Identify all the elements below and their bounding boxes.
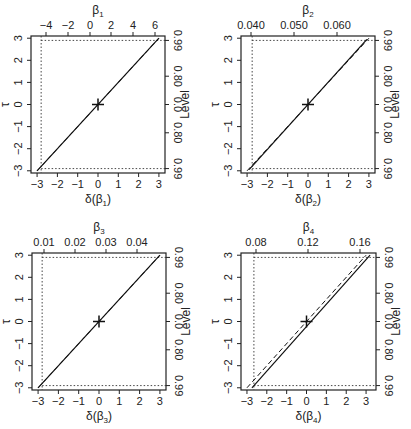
bottom-axis-title: δ(β3) (86, 409, 112, 425)
panel-4: −3−2−10123−3−2−101230.990.800.00.800.990… (208, 220, 403, 425)
level-tick-label: 0.80 (383, 339, 395, 360)
y-tick-label: −2 (222, 142, 234, 155)
x-tick-label: 2 (136, 178, 142, 190)
x-tick-label: −1 (72, 395, 85, 407)
top-tick-label: 0.08 (245, 236, 266, 248)
level-tick-label: 0.80 (383, 283, 395, 304)
top-tick-label: 2 (108, 19, 114, 31)
y-tick-label: 2 (222, 274, 234, 280)
y-tick-label: 1 (222, 296, 234, 302)
x-tick-label: −2 (261, 178, 274, 190)
y-axis-title: τ (0, 102, 12, 107)
panel-1: −3−2−10123−3−2−101230.990.800.00.800.99−… (0, 3, 192, 208)
bottom-axis-title: δ(β2) (295, 192, 321, 208)
y-tick-label: 3 (222, 252, 234, 258)
x-tick-label: −1 (281, 178, 294, 190)
level-tick-label: 0.80 (173, 339, 185, 360)
x-tick-label: −2 (261, 395, 274, 407)
bottom-axis-title: δ(β4) (295, 409, 321, 425)
level-tick-label: 0.80 (173, 283, 185, 304)
bottom-axis-title: δ(β1) (85, 192, 111, 208)
y-tick-label: 2 (13, 274, 25, 280)
top-tick-label: −4 (40, 19, 53, 31)
y-tick-label: 0 (222, 318, 234, 324)
top-axis-title: β4 (303, 220, 315, 236)
x-tick-label: 0 (305, 178, 311, 190)
x-tick-label: −3 (241, 395, 254, 407)
level-tick-label: 0.99 (172, 158, 184, 179)
y-tick-label: −2 (222, 359, 234, 372)
x-tick-label: 3 (156, 178, 162, 190)
level-tick-label: 0.99 (383, 375, 395, 396)
y-tick-label: 1 (222, 79, 234, 85)
y-tick-label: 0 (13, 318, 25, 324)
panel-2: −3−2−10123−3−2−101230.990.800.00.800.990… (208, 3, 402, 208)
level-tick-label: 0.99 (172, 30, 184, 51)
y-tick-label: 1 (12, 79, 24, 85)
top-tick-label: 0.060 (323, 19, 351, 31)
y-tick-label: −3 (222, 165, 234, 178)
top-axis-title: β3 (93, 220, 105, 236)
y-tick-label: 2 (222, 57, 234, 63)
top-tick-label: 0.16 (349, 236, 370, 248)
top-axis-title: β1 (92, 3, 104, 19)
x-tick-label: 2 (343, 395, 349, 407)
level-tick-label: 0.80 (382, 122, 394, 143)
top-tick-label: 0.04 (126, 236, 147, 248)
top-tick-label: 0.02 (64, 236, 85, 248)
level-tick-label: 0.99 (383, 247, 395, 268)
level-axis-title: Level (389, 307, 403, 336)
y-tick-label: 3 (12, 35, 24, 41)
x-tick-label: 0 (95, 178, 101, 190)
y-tick-label: −1 (222, 120, 234, 133)
y-tick-label: 0 (12, 101, 24, 107)
x-tick-label: 1 (323, 395, 329, 407)
level-tick-label: 0.80 (382, 66, 394, 87)
x-tick-label: 1 (115, 178, 121, 190)
x-tick-label: 0 (96, 395, 102, 407)
level-tick-label: 0.99 (382, 158, 394, 179)
level-tick-label: 0.99 (382, 30, 394, 51)
level-tick-label: 0.99 (173, 375, 185, 396)
y-tick-label: −1 (222, 337, 234, 350)
level-axis-title: Level (388, 90, 402, 119)
x-tick-label: 1 (116, 395, 122, 407)
y-tick-label: 0 (222, 101, 234, 107)
top-tick-label: 0.040 (237, 19, 265, 31)
x-tick-label: −3 (241, 178, 254, 190)
y-tick-label: 3 (13, 252, 25, 258)
x-tick-label: −3 (32, 395, 45, 407)
top-tick-label: 4 (130, 19, 136, 31)
x-tick-label: −3 (31, 178, 44, 190)
y-tick-label: −2 (12, 142, 24, 155)
x-tick-label: 2 (346, 178, 352, 190)
x-tick-label: 2 (137, 395, 143, 407)
y-tick-label: 2 (12, 57, 24, 63)
top-tick-label: 0 (87, 19, 93, 31)
y-tick-label: −3 (13, 382, 25, 395)
x-tick-label: −1 (71, 178, 84, 190)
y-axis-title: τ (0, 319, 13, 324)
panel-3: −3−2−10123−3−2−101230.990.800.00.800.990… (0, 220, 193, 425)
x-tick-label: 3 (157, 395, 163, 407)
y-tick-label: −2 (13, 359, 25, 372)
y-tick-label: −3 (12, 165, 24, 178)
top-tick-label: −2 (62, 19, 75, 31)
level-tick-label: 0.80 (172, 66, 184, 87)
y-tick-label: −1 (12, 120, 24, 133)
top-tick-label: 0.03 (95, 236, 116, 248)
y-axis-title: τ (208, 319, 222, 324)
top-tick-label: 0.050 (280, 19, 308, 31)
y-tick-label: −1 (13, 337, 25, 350)
x-tick-label: −2 (51, 178, 64, 190)
x-tick-label: −1 (280, 395, 293, 407)
x-tick-label: 3 (366, 178, 372, 190)
profile-trace-figure: −3−2−10123−3−2−101230.990.800.00.800.99−… (0, 0, 411, 429)
y-tick-label: 3 (222, 35, 234, 41)
y-tick-label: −3 (222, 382, 234, 395)
level-tick-label: 0.80 (172, 122, 184, 143)
y-axis-title: τ (208, 102, 222, 107)
x-tick-label: 3 (363, 395, 369, 407)
top-tick-label: 0.12 (297, 236, 318, 248)
top-axis-title: β2 (302, 3, 314, 19)
